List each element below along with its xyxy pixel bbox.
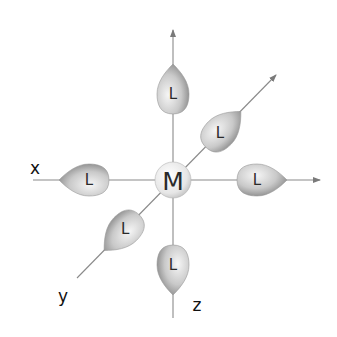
metal-label: M bbox=[162, 167, 184, 196]
metal-center: M bbox=[155, 162, 191, 198]
ligand-label: L bbox=[216, 124, 225, 142]
ligand-left: L bbox=[59, 164, 109, 196]
ligand-label: L bbox=[121, 220, 130, 238]
ligand-bottom: L bbox=[157, 245, 189, 295]
ligand-label: L bbox=[253, 171, 262, 189]
ligand-label: L bbox=[169, 85, 178, 103]
octahedral-complex-diagram: L L L L L L M x y z bbox=[0, 0, 337, 337]
x-axis-label: x bbox=[30, 158, 40, 178]
ligand-label: L bbox=[169, 256, 178, 274]
z-axis-label: z bbox=[193, 295, 202, 315]
ligand-label: L bbox=[85, 171, 94, 189]
ligand-right: L bbox=[237, 164, 287, 196]
ligand-top: L bbox=[157, 64, 189, 114]
y-axis-label: y bbox=[58, 286, 68, 306]
